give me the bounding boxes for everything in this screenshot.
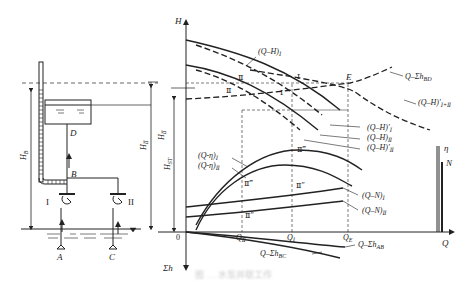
label-pump-I: I [46, 197, 49, 207]
diagram-root: D B I II A C HB HⅡ [0, 0, 467, 284]
label-A: A [56, 252, 63, 262]
mark-II-triple-lower: Ⅱ‴ [244, 179, 253, 188]
label-QH-II-prime: (Q–H)′Ⅱ [367, 143, 395, 153]
point-E-label: E [345, 72, 352, 82]
label-QN-II: (Q–N)Ⅱ [362, 206, 387, 216]
label-QH-II: (Q–H)Ⅱ [367, 133, 393, 143]
label-Q-I: QⅠ [287, 233, 296, 243]
label-QH-I+II: (Q–H)′Ⅰ+Ⅱ [418, 98, 452, 108]
label-sys-AB: Q–ΣhAB [358, 240, 384, 250]
label-sys-BC: Q–ΣhBC [260, 249, 287, 259]
axis-eta-label: η [444, 143, 449, 153]
axis-N-label: N [445, 158, 453, 168]
label-C: C [109, 252, 116, 262]
label-Qeta-I: (Q-η)Ⅰ [198, 151, 219, 161]
pump-schematic [21, 62, 158, 249]
label-QN-I: (Q–N)Ⅰ [362, 191, 385, 201]
mark-II-triple-upper: Ⅱ‴ [297, 145, 306, 154]
label-pump-II: II [128, 197, 134, 207]
diagram-canvas: D B I II A C HB HⅡ [0, 0, 467, 284]
label-HII-chart: HⅡ [157, 129, 167, 141]
label-HII-schematic: HⅡ [139, 139, 149, 151]
label-QH-I-prime: (Q–H)′Ⅰ [367, 123, 393, 133]
origin-label: 0 [176, 233, 180, 242]
mark-I-lower: Ⅰ [280, 88, 283, 97]
axis-H-label: H [174, 16, 182, 26]
label-Qeta-II: (Q-η)Ⅱ [198, 161, 221, 171]
label-D: D [69, 128, 77, 138]
label-sys-BD: Q–ΣhBD [405, 72, 432, 82]
label-B: B [71, 169, 77, 179]
label-Q-II: QⅡ [236, 233, 247, 243]
mark-II-upper: Ⅱ [238, 73, 243, 82]
figure-caption: 图 … 水泵并联工作 [0, 268, 467, 281]
label-HB: HB [19, 150, 29, 161]
axis-Q-label: Q [442, 238, 449, 248]
mark-II-double-lower: Ⅱ″ [245, 211, 254, 220]
label-Q-E: QE [343, 233, 353, 243]
label-HST: HST [163, 157, 173, 171]
mark-II-lower: Ⅱ [226, 86, 231, 95]
mark-I-upper: Ⅰ [297, 72, 300, 81]
label-QH-I: (Q–H)Ⅰ [258, 47, 282, 57]
mark-II-double-upper: Ⅱ″ [296, 181, 305, 190]
